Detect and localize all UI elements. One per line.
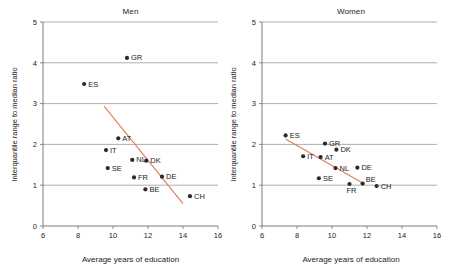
panel-women: Women Interquantile range to median rati… <box>226 0 453 278</box>
x-tick-label: 10 <box>328 231 336 240</box>
point-label: CH <box>194 192 205 201</box>
y-tick-label: 4 <box>33 59 37 68</box>
data-point-se[interactable]: SE <box>317 174 333 183</box>
data-point-it[interactable]: IT <box>104 146 117 155</box>
y-tick-label: 3 <box>33 99 37 108</box>
point-marker <box>144 159 148 163</box>
point-marker <box>132 175 136 179</box>
data-point-at[interactable]: AT <box>116 134 132 143</box>
point-label: BE <box>366 175 376 184</box>
y-tick-label: 5 <box>252 18 256 27</box>
data-point-ch[interactable]: CH <box>375 182 392 191</box>
x-tick-label: 8 <box>295 231 299 240</box>
plot-area-women: 0123456810121416ESGRDKITATNLDESEFRBECH <box>226 0 453 278</box>
point-marker <box>116 136 120 140</box>
y-tick-label: 0 <box>33 222 37 231</box>
panel-men: Men Interquantile range to median ratio … <box>0 0 226 278</box>
point-marker <box>355 166 359 170</box>
data-point-se[interactable]: SE <box>106 164 122 173</box>
data-point-de[interactable]: DE <box>160 172 177 181</box>
y-tick-label: 1 <box>33 181 37 190</box>
y-tick-label: 2 <box>252 140 256 149</box>
point-marker <box>347 182 351 186</box>
point-marker <box>284 133 288 137</box>
point-label: AT <box>325 153 334 162</box>
data-point-nl[interactable]: NL <box>333 164 349 173</box>
point-label: FR <box>347 186 358 195</box>
point-marker <box>301 154 305 158</box>
point-label: AT <box>122 134 131 143</box>
data-point-it[interactable]: IT <box>301 152 314 161</box>
x-tick-label: 16 <box>433 231 441 240</box>
data-point-be[interactable]: BE <box>143 185 159 194</box>
x-tick-label: 14 <box>179 231 187 240</box>
point-label: ES <box>88 80 98 89</box>
point-marker <box>82 82 86 86</box>
point-label: BE <box>149 185 159 194</box>
point-label: CH <box>381 182 392 191</box>
data-point-es[interactable]: ES <box>284 131 300 140</box>
point-label: DE <box>166 172 176 181</box>
figure-root: Men Interquantile range to median ratio … <box>0 0 453 278</box>
data-point-gr[interactable]: GR <box>323 139 341 148</box>
point-label: SE <box>323 174 333 183</box>
plot-area-men: 0123456810121416GRESATITNLDKSEFRDEBECH <box>0 0 226 278</box>
y-tick-label: 0 <box>252 222 256 231</box>
y-tick-label: 1 <box>252 181 256 190</box>
point-label: DK <box>340 145 350 154</box>
x-tick-label: 6 <box>41 231 45 240</box>
point-marker <box>130 158 134 162</box>
y-tick-label: 3 <box>252 99 256 108</box>
y-tick-label: 2 <box>33 140 37 149</box>
x-tick-label: 8 <box>76 231 80 240</box>
point-marker <box>125 56 129 60</box>
point-marker <box>104 148 108 152</box>
point-label: DK <box>150 156 160 165</box>
data-point-ch[interactable]: CH <box>188 192 205 201</box>
point-label: FR <box>138 173 149 182</box>
point-label: GR <box>329 139 341 148</box>
point-marker <box>317 176 321 180</box>
data-point-es[interactable]: ES <box>82 80 98 89</box>
point-label: GR <box>131 53 143 62</box>
point-label: SE <box>112 164 122 173</box>
data-point-fr[interactable]: FR <box>132 173 149 182</box>
point-label: DE <box>361 163 371 172</box>
x-tick-label: 14 <box>398 231 406 240</box>
point-marker <box>143 187 147 191</box>
point-marker <box>361 181 365 185</box>
x-tick-label: 12 <box>144 231 152 240</box>
y-tick-label: 5 <box>33 18 37 27</box>
point-marker <box>188 194 192 198</box>
y-tick-label: 4 <box>252 59 256 68</box>
point-label: NL <box>340 164 350 173</box>
point-marker <box>334 148 338 152</box>
point-label: IT <box>110 146 117 155</box>
point-marker <box>106 166 110 170</box>
point-marker <box>323 141 327 145</box>
point-marker <box>160 175 164 179</box>
data-point-be[interactable]: BE <box>361 175 376 186</box>
point-marker <box>375 184 379 188</box>
data-point-nl[interactable]: NL <box>130 155 146 164</box>
point-marker <box>319 155 323 159</box>
data-point-dk[interactable]: DK <box>144 156 161 165</box>
x-tick-label: 10 <box>109 231 117 240</box>
data-point-gr[interactable]: GR <box>125 53 143 62</box>
data-point-at[interactable]: AT <box>319 153 335 162</box>
x-tick-label: 6 <box>260 231 264 240</box>
data-point-de[interactable]: DE <box>355 163 372 172</box>
x-tick-label: 16 <box>214 231 222 240</box>
data-point-fr[interactable]: FR <box>347 182 358 196</box>
x-tick-label: 12 <box>363 231 371 240</box>
point-label: ES <box>290 131 300 140</box>
point-marker <box>333 166 337 170</box>
point-label: IT <box>307 152 314 161</box>
